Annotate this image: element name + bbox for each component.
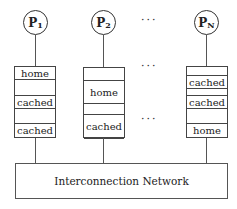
processor-label: P [28,16,37,30]
memory-row-home: home [15,66,55,80]
link-p2-memory [103,35,104,67]
processor-label: P [198,16,207,30]
processor-pn: PN [194,10,219,35]
processor-label: P [96,16,105,30]
processor-subscript: 2 [105,20,111,30]
ellipsis-memory-bottom: ··· [141,113,158,126]
network-label: Interconnection Network [54,175,189,187]
processor-p1: P1 [23,10,48,35]
memory-module-2: home cached [83,67,125,138]
link-p1-memory [35,35,36,66]
processor-subscript: 1 [37,20,43,30]
memory-row-cached: cached [84,114,124,139]
ellipsis-processors: ··· [141,14,158,27]
memory-row-home: home [84,80,124,104]
link-memory1-network [35,138,36,163]
memory-row-cached: cached [187,75,227,89]
memory-row-cached: cached [187,95,227,109]
link-pn-memory [206,35,207,66]
processor-p2: P2 [91,10,116,35]
link-memory2-network [103,138,104,163]
ellipsis-memory-top: ··· [141,60,158,73]
interconnection-network: Interconnection Network [15,163,228,199]
link-memoryn-network [206,138,207,163]
memory-module-1: home cached cached [14,66,56,138]
processor-subscript: N [207,20,214,30]
memory-row-cached: cached [15,123,55,138]
memory-row-cached: cached [15,95,55,109]
memory-row-home: home [187,123,227,138]
memory-module-n: cached cached home [186,66,228,138]
